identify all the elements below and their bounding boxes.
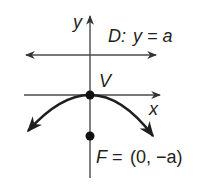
focus-coordinates: (0, −a): [130, 147, 183, 167]
directrix-equation: y = a: [131, 26, 173, 46]
x-axis-label: x: [148, 99, 159, 119]
vertex-label: V: [99, 71, 113, 91]
focus-label-prefix: F =: [96, 147, 122, 167]
parabola-curve-right: [90, 95, 153, 136]
y-axis-label: y: [71, 12, 83, 32]
vertex-point: [86, 91, 95, 100]
parabola-diagram: y x V D: y = a F = (0, −a): [0, 0, 213, 191]
focus-point: [86, 132, 95, 141]
parabola-curve: [28, 95, 90, 131]
directrix-label-prefix: D:: [108, 26, 126, 46]
